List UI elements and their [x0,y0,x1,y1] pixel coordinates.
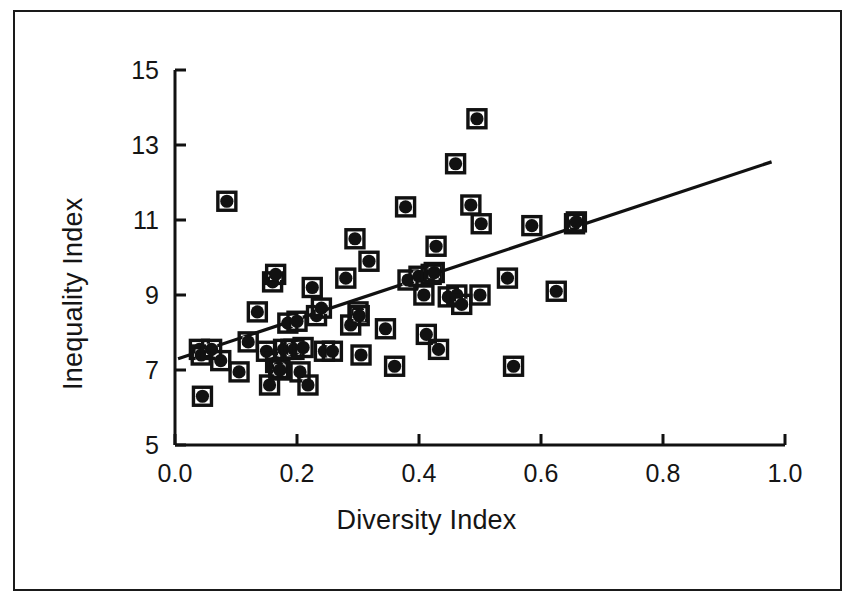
data-point [218,192,236,210]
data-point [468,110,486,128]
y-axis-title: Inequality Index [58,198,89,390]
data-point [471,286,489,304]
data-point [248,303,266,321]
data-point [239,333,257,351]
x-tick-label: 0.8 [646,459,681,488]
x-tick-label: 0.6 [524,459,559,488]
data-points [190,110,585,406]
x-tick-label: 0.4 [402,459,437,488]
trend-line [178,162,772,359]
data-point [498,269,516,287]
x-axis-title: Diversity Index [0,505,853,536]
data-point [386,357,404,375]
data-point [547,282,565,300]
y-tick-label: 11 [133,206,159,235]
y-tick-label: 13 [131,131,159,160]
scatter-plot-figure: 579111315 0.00.20.40.60.81.0 Inequality … [0,0,853,605]
x-tick-label: 1.0 [768,459,803,488]
data-point [462,196,480,214]
data-point [360,252,378,270]
regression-line [178,162,772,359]
data-point [397,198,415,216]
x-tick-label: 0.0 [158,459,193,488]
data-point [303,279,321,297]
x-tick-label: 0.2 [280,459,315,488]
data-point [230,363,248,381]
data-point [447,155,465,173]
data-point [427,237,445,255]
data-point [352,346,370,364]
data-point [523,217,541,235]
data-point [376,320,394,338]
data-point [505,357,523,375]
data-point [472,215,490,233]
data-point [346,230,364,248]
y-tick-label: 15 [131,56,159,85]
y-tick-label: 5 [145,431,159,460]
data-point [337,269,355,287]
y-tick-label: 9 [145,281,159,310]
data-point [299,376,317,394]
y-tick-label: 7 [145,356,159,385]
data-point [193,387,211,405]
